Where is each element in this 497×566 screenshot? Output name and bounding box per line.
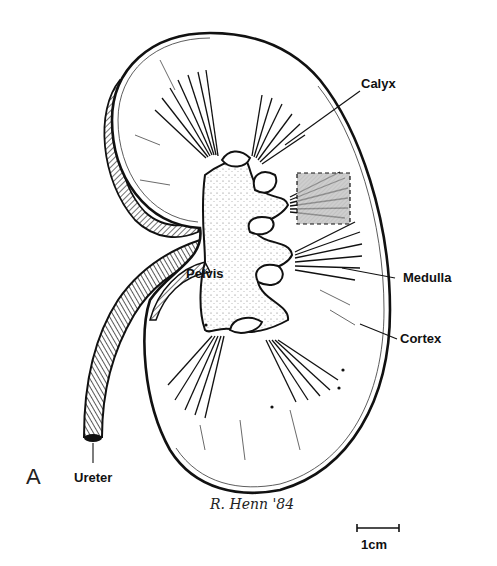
label-ureter: Ureter bbox=[74, 470, 112, 485]
panel-letter: A bbox=[26, 464, 41, 490]
label-medulla: Medulla bbox=[403, 270, 451, 285]
label-calyx: Calyx bbox=[361, 76, 396, 91]
scale-bar-label: 1cm bbox=[361, 537, 387, 552]
highlight-box bbox=[297, 173, 350, 224]
scale-bar bbox=[357, 524, 399, 532]
label-cortex: Cortex bbox=[400, 331, 441, 346]
artist-signature: R. Henn '84 bbox=[210, 496, 294, 512]
label-pelvis: Pelvis bbox=[186, 266, 224, 281]
